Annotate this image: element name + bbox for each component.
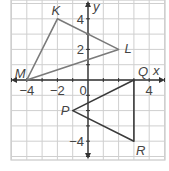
vertex-label-m: M [15,66,26,81]
x-tick-label: −4 [19,83,34,98]
y-tick-label: −4 [69,134,84,149]
vertex-label-q: Q [138,64,148,79]
vertex-label-l: L [125,41,132,56]
x-tick-label: 0 [79,83,86,98]
x-axis-label: x [152,63,160,78]
x-tick-label: −2 [50,83,65,98]
y-tick-label: 4 [77,12,84,27]
vertex-label-k: K [51,3,61,18]
vertex-label-p: P [61,103,70,118]
x-tick-label: 4 [146,83,153,98]
y-tick-label: 2 [77,42,84,57]
vertex-label-r: R [136,143,145,158]
coordinate-plane: x y −4−20442−4KLMPQR [0,0,169,171]
